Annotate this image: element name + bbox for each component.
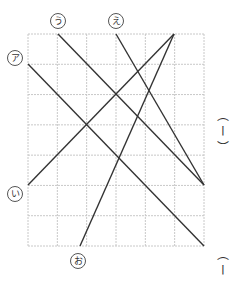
line-grid-diagram: ア う え い お ︵ ー ︶ ︵ ー (0, 0, 230, 288)
line-u (58, 34, 204, 185)
label-o: お (70, 253, 86, 269)
label-u: う (50, 13, 66, 29)
label-a: ア (7, 50, 23, 66)
line-e (116, 34, 204, 185)
label-i: い (7, 186, 23, 202)
answer-bracket-top: ︵ ー ︶ (216, 96, 230, 166)
label-e: え (108, 13, 124, 29)
answer-bracket-bottom: ︵ ー (216, 236, 230, 288)
line-i (28, 34, 174, 185)
grid-svg (0, 0, 230, 288)
